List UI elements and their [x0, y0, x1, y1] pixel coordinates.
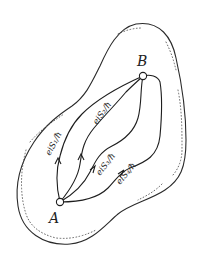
amplitude-s3-label: eiS₃/ħ: [94, 151, 117, 177]
diagram-canvas: A B eiS₁/ħ eiS₂/ħ eiS₃/ħ eiS₄/ħ: [0, 0, 203, 269]
point-a-node: [56, 198, 63, 205]
path-s2: [60, 76, 143, 202]
path-s1: [57, 76, 143, 202]
point-b-node: [139, 72, 146, 79]
path-s3: [60, 76, 143, 202]
point-b-label: B: [136, 53, 147, 69]
amplitude-s4-label: eiS₄/ħ: [114, 160, 138, 186]
path-s4: [60, 75, 162, 202]
region-stipple-right: [166, 42, 182, 176]
point-a-label: A: [47, 210, 59, 226]
path-integral-diagram: A B eiS₁/ħ eiS₂/ħ eiS₃/ħ eiS₄/ħ: [0, 0, 203, 269]
